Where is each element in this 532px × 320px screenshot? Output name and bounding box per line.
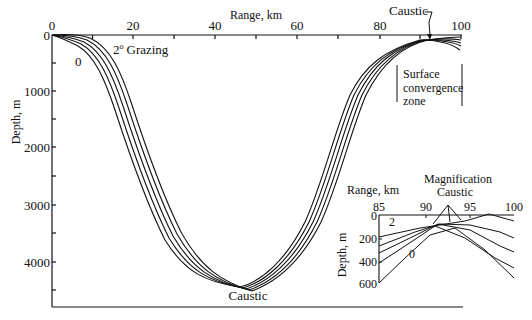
inset-y-tick-200: 200 [359,232,377,246]
x-tick-60: 60 [291,18,304,33]
magnification-label: Magnification [424,172,492,186]
y-tick-0: 0 [44,28,51,43]
x-tick-40: 40 [209,18,222,33]
inset-ray-2-label: 2 [389,215,395,229]
inset-y-axis-label: Depth, m [335,232,349,277]
inset-ray-0-label: 0 [409,247,415,261]
ray-0 [52,35,460,287]
inset-x-axis-label: Range, km [347,183,400,197]
inset-x-tick-95: 95 [464,200,476,214]
surface-zone-label-2: convergence [403,81,463,95]
main-ray-curves [52,34,461,291]
ray-diagram: 0 20 40 60 80 100 Range, km 0 1000 2000 … [0,0,532,320]
surface-zone-label-3: zone [403,94,426,108]
ray-4 [52,34,461,291]
inset-y-tick-600: 600 [359,277,377,291]
ray-2 [52,35,461,289]
caustic-top-label: Caustic [389,3,428,18]
inset-y-tick-400: 400 [359,255,377,269]
ray-3 [52,35,461,290]
surface-zone-label-1: Surface [403,67,440,81]
x-tick-20: 20 [127,18,140,33]
main-axes [52,35,463,307]
y-tick-2000: 2000 [24,140,50,155]
grazing-label: 2oGrazing [113,42,169,57]
ray-0-label: 0 [75,54,82,69]
caustic-bottom-label: Caustic [229,288,268,303]
x-tick-80: 80 [374,18,387,33]
y-axis-label: Depth, m [9,99,23,144]
inset-chart: 85 90 95 100 0 200 400 600 Range, km Dep… [335,172,523,291]
x-axis-label: Range, km [230,8,283,22]
inset-caustic-label: Caustic [437,185,473,199]
inset-x-tick-100: 100 [505,200,523,214]
y-tick-labels: 0 1000 2000 3000 4000 [24,28,50,270]
inset-y-tick-0: 0 [371,209,377,223]
x-tick-100: 100 [451,18,471,33]
inset-ray-curves [379,214,514,283]
inset-ray-0 [379,228,514,283]
y-tick-4000: 4000 [24,255,50,270]
y-tick-1000: 1000 [24,84,50,99]
inset-x-tick-90: 90 [420,200,432,214]
y-tick-3000: 3000 [24,198,50,213]
